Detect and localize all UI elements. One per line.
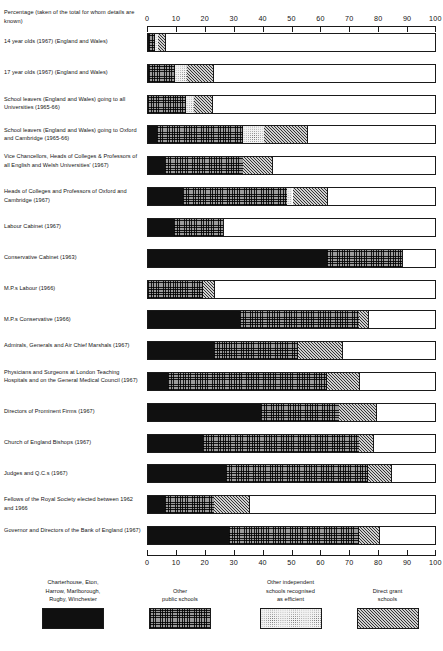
x-tick-label: 100 (429, 14, 442, 23)
segment-divider (272, 157, 273, 174)
segment-divider (379, 527, 380, 544)
segment-divider (402, 250, 403, 267)
bar-row-label: Labour Cabinet (1967) (4, 222, 142, 230)
legend-item[interactable]: Direct grantschools (340, 578, 435, 629)
bar-row[interactable] (147, 125, 436, 144)
bar-row[interactable] (147, 464, 436, 483)
bar-row-label: Fellows of the Royal Society elected bet… (4, 495, 142, 512)
legend-label: Otherpublic schools (130, 587, 230, 604)
segment-divider (307, 126, 308, 143)
x-tick-mark (407, 27, 408, 32)
x-tick-mark (147, 27, 148, 32)
x-tick-mark (205, 27, 206, 32)
bar-segment (165, 496, 214, 513)
bar-segment (148, 404, 261, 421)
bar-row-label: 17 year olds (1967) (England and Wales) (4, 68, 142, 76)
axis-caption: Percentage (taken of the total for whom … (4, 8, 136, 25)
bar-row[interactable] (147, 434, 436, 453)
bar-segment (148, 157, 165, 174)
bar-segment (359, 311, 368, 328)
x-tick-mark (292, 550, 293, 555)
x-tick-label: 60 (316, 14, 324, 23)
bar-segment (148, 311, 240, 328)
bar-segment (368, 465, 391, 482)
bar-row[interactable] (147, 64, 436, 83)
bar-row[interactable] (147, 526, 436, 545)
bar-row[interactable] (147, 495, 436, 514)
bar-row-label: Directors of Prominent Firms (1967) (4, 407, 142, 415)
bar-segment (203, 435, 359, 452)
bar-segment (148, 96, 186, 113)
bar-segment (168, 373, 327, 390)
x-tick-mark (349, 27, 350, 32)
segment-divider (214, 281, 215, 298)
segment-divider (212, 96, 213, 113)
bar-row-label: Heads of Colleges and Professors of Oxfo… (4, 187, 142, 204)
x-tick-mark (378, 550, 379, 555)
x-tick-mark (147, 550, 148, 555)
bar-row[interactable] (147, 33, 436, 52)
x-tick-label: 20 (201, 14, 209, 23)
bar-row[interactable] (147, 280, 436, 299)
bar-segment (240, 311, 358, 328)
bar-segment (183, 188, 287, 205)
bar-row[interactable] (147, 218, 436, 237)
bar-row[interactable] (147, 95, 436, 114)
bar-segment (158, 34, 165, 51)
x-tick-label: 80 (374, 14, 382, 23)
legend-item[interactable]: Other independentschools recognisedas ef… (238, 578, 343, 629)
bar-row[interactable] (147, 310, 436, 329)
bar-segment (148, 219, 174, 236)
bar-segment (148, 342, 214, 359)
x-tick-mark (176, 27, 177, 32)
bar-segment (187, 65, 213, 82)
x-tick-mark (435, 27, 436, 32)
x-tick-label: 30 (229, 558, 237, 567)
bar-segment (327, 250, 402, 267)
bar-segment (293, 188, 328, 205)
bar-row[interactable] (147, 187, 436, 206)
segment-divider (368, 311, 369, 328)
bar-row-label: M.P.s Conservative (1966) (4, 315, 142, 323)
bar-segment (214, 496, 249, 513)
bar-segment (243, 157, 272, 174)
bars-container (147, 33, 436, 545)
bar-segment (359, 527, 379, 544)
x-tick-mark (176, 550, 177, 555)
bar-segment (165, 157, 243, 174)
x-tick-mark (263, 27, 264, 32)
bar-segment (261, 404, 339, 421)
bar-row-label: School leavers (England and Wales) going… (4, 95, 142, 112)
x-tick-label: 50 (287, 14, 295, 23)
bar-row[interactable] (147, 403, 436, 422)
x-tick-label: 0 (145, 14, 149, 23)
x-tick-label: 90 (403, 558, 411, 567)
bar-row[interactable] (147, 372, 436, 391)
bar-segment (148, 281, 203, 298)
x-tick-mark (349, 550, 350, 555)
legend-item[interactable]: Charterhouse, Eton,Harrow, Marlborough,R… (18, 578, 128, 629)
x-tick-label: 60 (316, 558, 324, 567)
segment-divider (213, 65, 214, 82)
bar-row[interactable] (147, 249, 436, 268)
bar-row[interactable] (147, 156, 436, 175)
bar-segment (148, 373, 168, 390)
bar-row-label: School leavers (England and Wales) going… (4, 126, 142, 143)
x-tick-label: 0 (145, 558, 149, 567)
segment-divider (327, 188, 328, 205)
x-tick-label: 90 (403, 14, 411, 23)
x-tick-label: 30 (229, 14, 237, 23)
bar-segment (339, 404, 377, 421)
bar-segment (298, 342, 341, 359)
bar-segment (229, 527, 359, 544)
bar-segment (194, 96, 211, 113)
bar-segment (148, 126, 157, 143)
bar-row-label: Physicians and Surgeons at London Teachi… (4, 368, 142, 385)
segment-divider (373, 435, 374, 452)
x-tick-label: 10 (172, 558, 180, 567)
segment-divider (359, 373, 360, 390)
diagonal-hatch-swatch (357, 608, 419, 629)
legend-item[interactable]: Otherpublic schools (130, 578, 230, 629)
bar-row[interactable] (147, 341, 436, 360)
bar-segment (203, 281, 215, 298)
